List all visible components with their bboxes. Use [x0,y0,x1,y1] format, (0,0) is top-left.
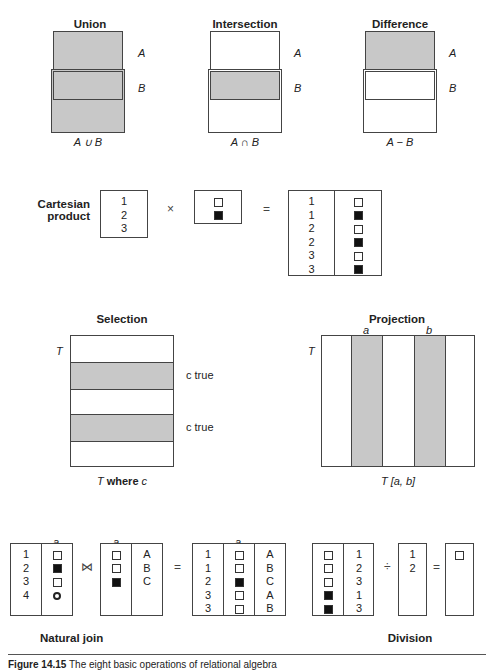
empty-square-icon [112,551,121,560]
projection-title: Projection [320,313,474,325]
symbol-cell [313,589,343,603]
value-cell: 1 [344,548,374,562]
intersection-set-a [210,31,280,71]
filled-square-icon [354,211,363,220]
filled-square-icon [235,578,244,587]
selection-table-label: T [56,345,63,357]
value-cell: B [132,562,162,576]
cartesian-title-line1: Cartesian [30,198,90,210]
empty-square-icon [235,605,244,614]
symbol-cell [446,548,473,562]
symbol-cell [195,209,241,223]
cartesian-result-numbers: 112233 [289,195,334,276]
selection-caption: T where c [70,475,174,487]
symbol-cell [101,548,131,562]
empty-square-icon [455,551,464,560]
join-right-table: ABC [100,543,163,616]
empty-square-icon [324,578,333,587]
figure-caption: Figure 14.15 The eight basic operations … [8,659,277,670]
cartesian-result-symbols [335,195,381,276]
join-right-symbols [101,548,131,589]
symbol-cell [42,548,72,562]
condition-label-2: c true [186,421,214,433]
join-symbol: ⋈ [81,560,93,574]
value-cell: 1 [101,195,147,209]
symbol-cell [335,209,381,223]
empty-square-icon [235,564,244,573]
filled-square-icon [354,265,363,274]
value-cell: A [132,548,162,562]
symbol-cell [313,548,343,562]
cartesian-right-values [195,195,241,222]
value-cell: 1 [193,562,223,576]
union-overlap [53,71,123,100]
cartesian-left-values: 123 [101,195,147,236]
condition-label-1: c true [186,369,214,381]
empty-square-icon [354,252,363,261]
value-cell: 4 [11,589,41,603]
difference-title: Difference [362,18,438,30]
caption-c: c [142,475,148,487]
empty-square-icon [53,551,62,560]
union-set-a [53,31,123,71]
symbol-cell [195,195,241,209]
value-cell: A [255,548,285,562]
empty-square-icon [324,564,333,573]
value-cell: 1 [193,548,223,562]
join-result-numbers: 11233 [193,548,223,616]
difference-caption: A − B [365,136,435,148]
quotient-table [445,543,474,616]
projected-column-b [414,335,446,467]
value-cell: C [255,575,285,589]
selection-table [70,335,174,467]
value-cell: B [255,562,285,576]
equals-symbol: = [263,202,270,216]
projection-table-label: T [308,345,315,357]
divisor-table: 12 [398,543,427,616]
dividend-table: 12313 [312,543,374,616]
value-cell: 2 [344,562,374,576]
value-cell: 2 [11,562,41,576]
figure-caption-text: The eight basic operations of relational… [69,659,277,670]
projection-table [321,335,475,467]
symbol-cell [313,562,343,576]
value-cell: 2 [399,562,426,576]
quotient-symbols [446,548,473,562]
value-cell: 3 [11,575,41,589]
symbol-cell [42,562,72,576]
join-result-table: 11233 ABCAB [192,543,286,616]
empty-square-icon [354,198,363,207]
divisor-values: 12 [399,548,426,575]
empty-square-icon [354,225,363,234]
join-right-letters: ABC [132,548,162,589]
value-cell: A [255,589,285,603]
value-cell: 3 [193,602,223,616]
division-title: Division [370,632,450,644]
cartesian-title-line2: product [30,210,90,222]
union-label-b: B [138,82,145,94]
selected-rows-2 [70,414,174,442]
times-symbol: × [167,202,174,216]
projection-caption: T [a, b] [321,475,475,487]
value-cell: 1 [289,209,334,223]
difference-set-a [365,31,435,71]
value-cell: 1 [344,589,374,603]
symbol-cell [224,562,254,576]
caption-rule [8,654,486,655]
selected-rows-1 [70,362,174,390]
intersection-overlap [210,71,280,100]
difference-label-b: B [449,82,456,94]
value-cell: 3 [101,222,147,236]
symbol-cell [335,249,381,263]
filled-square-icon [324,605,333,614]
union-title: Union [53,18,127,30]
empty-square-icon [214,198,223,207]
value-cell: 3 [344,602,374,616]
symbol-cell [224,602,254,616]
value-cell: 1 [399,548,426,562]
difference-overlap [365,71,435,100]
filled-square-icon [214,211,223,220]
cartesian-result-table: 112233 [288,190,382,276]
value-cell: 2 [289,222,334,236]
symbol-cell [224,575,254,589]
